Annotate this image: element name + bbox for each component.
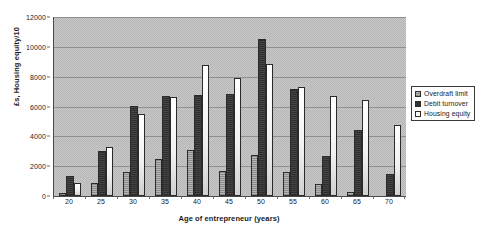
- bar: [266, 64, 274, 196]
- x-axis-tick-labels: 2025303540455055606570: [53, 198, 405, 212]
- legend-label: Debit turnover: [424, 100, 468, 107]
- x-axis-tick-label: 30: [117, 198, 149, 212]
- x-axis-tick-label: 35: [149, 198, 181, 212]
- x-axis-title: Age of entrepreneur (years): [53, 214, 405, 223]
- y-axis-tick-label: 12000: [26, 14, 46, 21]
- bar-group: [214, 17, 246, 196]
- bar: [98, 151, 106, 196]
- bar-group: [310, 17, 342, 196]
- bar-group: [182, 17, 214, 196]
- chart-legend: Overdraft limitDebit turnoverHousing equ…: [411, 86, 475, 121]
- y-axis-tick-mark: [47, 136, 50, 137]
- y-axis-tick-label: 2000: [30, 163, 46, 170]
- bar: [330, 96, 338, 196]
- x-axis-tick-label: 45: [213, 198, 245, 212]
- y-axis-tick-label: 0: [42, 193, 46, 200]
- y-axis-tick-label: 8000: [30, 73, 46, 80]
- legend-item[interactable]: Debit turnover: [415, 100, 470, 107]
- bar: [315, 184, 323, 196]
- bar: [362, 100, 370, 196]
- plot-area: [53, 17, 406, 197]
- bar: [106, 147, 114, 196]
- bar: [187, 150, 195, 196]
- bar: [290, 89, 298, 196]
- bar: [258, 39, 266, 196]
- bar: [138, 114, 146, 196]
- bar: [322, 156, 330, 196]
- y-axis-tick-label: 10000: [26, 43, 46, 50]
- y-axis-tick-mark: [47, 196, 50, 197]
- bar: [170, 97, 178, 196]
- chart-figure: £s, Housing equity/10 020004000600080001…: [0, 0, 488, 242]
- bar-group: [86, 17, 118, 196]
- y-axis-tick-labels: 020004000600080001000012000: [8, 17, 50, 196]
- x-axis-tick-label: 20: [53, 198, 85, 212]
- legend-swatch-icon: [415, 111, 421, 117]
- bar: [234, 78, 242, 196]
- bar-group: [118, 17, 150, 196]
- bar: [202, 65, 210, 196]
- bar: [123, 172, 131, 196]
- bar: [130, 106, 138, 196]
- legend-item[interactable]: Housing equity: [415, 110, 470, 117]
- bar: [194, 95, 202, 196]
- x-axis-tick-label: 25: [85, 198, 117, 212]
- y-axis-tick-mark: [47, 17, 50, 18]
- bar-groups: [54, 17, 406, 196]
- bar: [74, 183, 82, 196]
- bar-group: [54, 17, 86, 196]
- bar: [66, 176, 74, 196]
- bar: [386, 174, 394, 196]
- legend-label: Overdraft limit: [424, 90, 468, 97]
- y-axis-tick-label: 6000: [30, 103, 46, 110]
- x-axis-tick-label: 65: [341, 198, 373, 212]
- x-axis-tick-label: 70: [373, 198, 405, 212]
- bar: [226, 94, 234, 196]
- y-axis-tick-mark: [47, 166, 50, 167]
- bar-group: [246, 17, 278, 196]
- x-axis-tick-label: 40: [181, 198, 213, 212]
- legend-swatch-icon: [415, 91, 421, 97]
- legend-swatch-icon: [415, 101, 421, 107]
- legend-item[interactable]: Overdraft limit: [415, 90, 470, 97]
- bar-group: [374, 17, 406, 196]
- y-axis-tick-mark: [47, 46, 50, 47]
- bar: [91, 183, 99, 196]
- bar: [394, 125, 402, 196]
- bar-group: [342, 17, 374, 196]
- bar-group: [150, 17, 182, 196]
- bar: [283, 172, 291, 196]
- bar: [162, 96, 170, 196]
- x-axis-tick-label: 60: [309, 198, 341, 212]
- bar: [219, 171, 227, 196]
- y-axis-tick-mark: [47, 76, 50, 77]
- bar: [251, 155, 259, 196]
- bar: [155, 159, 163, 196]
- y-axis-tick-label: 4000: [30, 133, 46, 140]
- x-axis-tick-label: 50: [245, 198, 277, 212]
- bar: [298, 87, 306, 196]
- x-axis-tick-label: 55: [277, 198, 309, 212]
- legend-label: Housing equity: [424, 110, 470, 117]
- y-axis-tick-mark: [47, 106, 50, 107]
- bar-group: [278, 17, 310, 196]
- bar: [354, 130, 362, 196]
